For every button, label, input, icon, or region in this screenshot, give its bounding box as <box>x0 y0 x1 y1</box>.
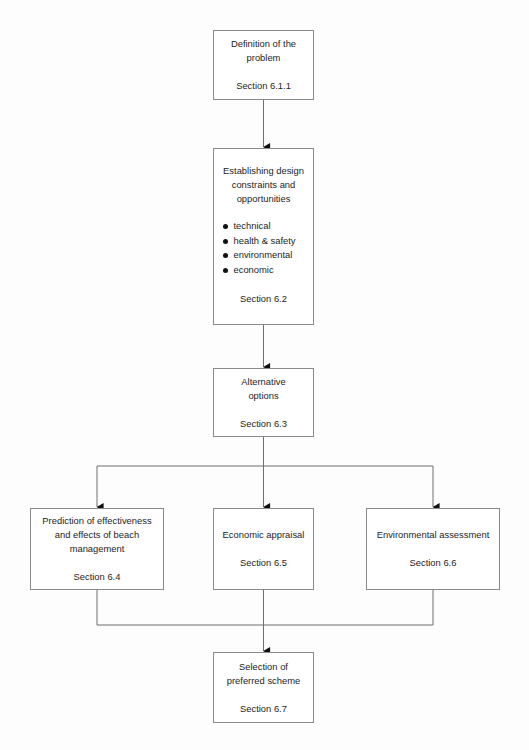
node-title: Environmental assessment <box>377 528 490 542</box>
node-title: Economic appraisal <box>223 528 305 542</box>
node-title: Prediction of effectiveness and effects … <box>42 514 151 556</box>
node-title: Alternative options <box>241 375 285 403</box>
bullet-item: technical <box>223 219 305 234</box>
node-title: Definition of the problem <box>231 37 296 65</box>
constraints-bullet-list: technical health & safety environmental … <box>223 219 305 277</box>
node-economic-appraisal[interactable]: Economic appraisal Section 6.5 <box>213 508 314 590</box>
node-alternative-options[interactable]: Alternative options Section 6.3 <box>213 368 314 437</box>
node-section-ref: Section 6.4 <box>74 570 121 584</box>
bullet-item: health & safety <box>223 234 305 249</box>
bullet-item: economic <box>223 263 305 278</box>
node-establishing-design-constraints[interactable]: Establishing design constraints and oppo… <box>213 148 314 325</box>
flowchart-diagram: Definition of the problem Section 6.1.1 … <box>0 0 529 750</box>
bullet-item: environmental <box>223 248 305 263</box>
node-section-ref: Section 6.6 <box>410 556 457 570</box>
node-title: Establishing design constraints and oppo… <box>219 164 308 206</box>
node-selection-of-preferred-scheme[interactable]: Selection of preferred scheme Section 6.… <box>213 652 314 723</box>
node-environmental-assessment[interactable]: Environmental assessment Section 6.6 <box>366 508 500 590</box>
node-prediction-of-effectiveness[interactable]: Prediction of effectiveness and effects … <box>30 508 164 590</box>
node-definition-of-the-problem[interactable]: Definition of the problem Section 6.1.1 <box>213 30 314 100</box>
node-section-ref: Section 6.3 <box>240 417 287 431</box>
node-section-ref: Section 6.2 <box>240 292 287 306</box>
node-section-ref: Section 6.1.1 <box>236 79 291 93</box>
node-section-ref: Section 6.7 <box>240 702 287 716</box>
node-section-ref: Section 6.5 <box>240 556 287 570</box>
node-title: Selection of preferred scheme <box>227 660 300 688</box>
